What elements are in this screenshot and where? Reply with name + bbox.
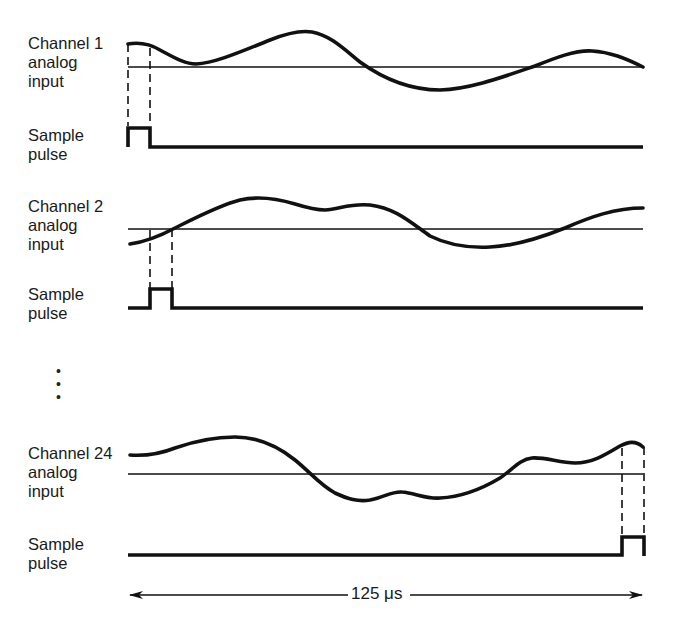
channel-2-analog-waveform — [128, 198, 643, 288]
channel-24-analog-waveform — [128, 437, 644, 536]
channel-2-sample-pulse — [128, 289, 643, 308]
channel-24-sample-pulse — [128, 537, 644, 556]
channel-2-signal — [130, 198, 643, 247]
channel-1-analog-waveform — [128, 31, 643, 126]
channel-1-sample-pulse — [128, 128, 643, 147]
channel-1-signal — [128, 31, 643, 90]
frame-period-label: 125 μs — [348, 584, 405, 604]
channel-24-signal — [130, 437, 643, 501]
timing-diagram — [0, 0, 678, 624]
